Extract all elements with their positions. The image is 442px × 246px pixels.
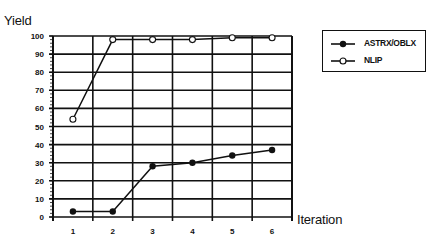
x-tick-label: 4 bbox=[190, 227, 195, 236]
y-tick-label: 10 bbox=[35, 195, 44, 204]
data-point bbox=[189, 160, 195, 166]
open-circle-marker-icon bbox=[331, 54, 355, 68]
x-tick-label: 3 bbox=[150, 227, 155, 236]
data-point bbox=[110, 37, 116, 43]
x-tick-label: 6 bbox=[270, 227, 275, 236]
legend-item-astrx-oblx: ASTRX/OBLX bbox=[323, 37, 425, 51]
x-tick-label: 2 bbox=[111, 227, 116, 236]
data-point bbox=[229, 35, 235, 41]
chart-grid bbox=[49, 36, 292, 221]
data-point bbox=[269, 35, 275, 41]
y-tick-label: 100 bbox=[31, 32, 45, 41]
y-tick-label: 20 bbox=[35, 177, 44, 186]
y-tick-label: 40 bbox=[35, 141, 44, 150]
y-tick-label: 30 bbox=[35, 159, 44, 168]
data-point bbox=[150, 37, 156, 43]
y-tick-label: 50 bbox=[35, 123, 44, 132]
data-point bbox=[229, 152, 235, 158]
x-tick-label: 1 bbox=[71, 227, 76, 236]
data-point bbox=[110, 208, 116, 214]
x-axis-title: Iteration bbox=[297, 212, 342, 227]
y-tick-label: 0 bbox=[40, 213, 45, 222]
data-point bbox=[70, 116, 76, 122]
legend-item-nlip: NLIP bbox=[323, 54, 425, 68]
y-tick-label: 70 bbox=[35, 86, 44, 95]
y-tick-label: 60 bbox=[35, 104, 44, 113]
y-tick-label: 90 bbox=[35, 50, 44, 59]
data-point bbox=[189, 37, 195, 43]
x-axis-ticks: 123456 bbox=[71, 227, 275, 236]
data-point bbox=[149, 163, 155, 169]
chart-legend: ASTRX/OBLX NLIP bbox=[322, 30, 426, 72]
legend-label: NLIP bbox=[364, 55, 382, 65]
data-point bbox=[70, 208, 76, 214]
x-tick-label: 5 bbox=[230, 227, 235, 236]
filled-circle-marker-icon bbox=[331, 37, 355, 51]
data-point bbox=[269, 147, 275, 153]
y-tick-label: 80 bbox=[35, 68, 44, 77]
y-axis-title: Yield bbox=[4, 13, 31, 28]
legend-label: ASTRX/OBLX bbox=[364, 38, 416, 48]
